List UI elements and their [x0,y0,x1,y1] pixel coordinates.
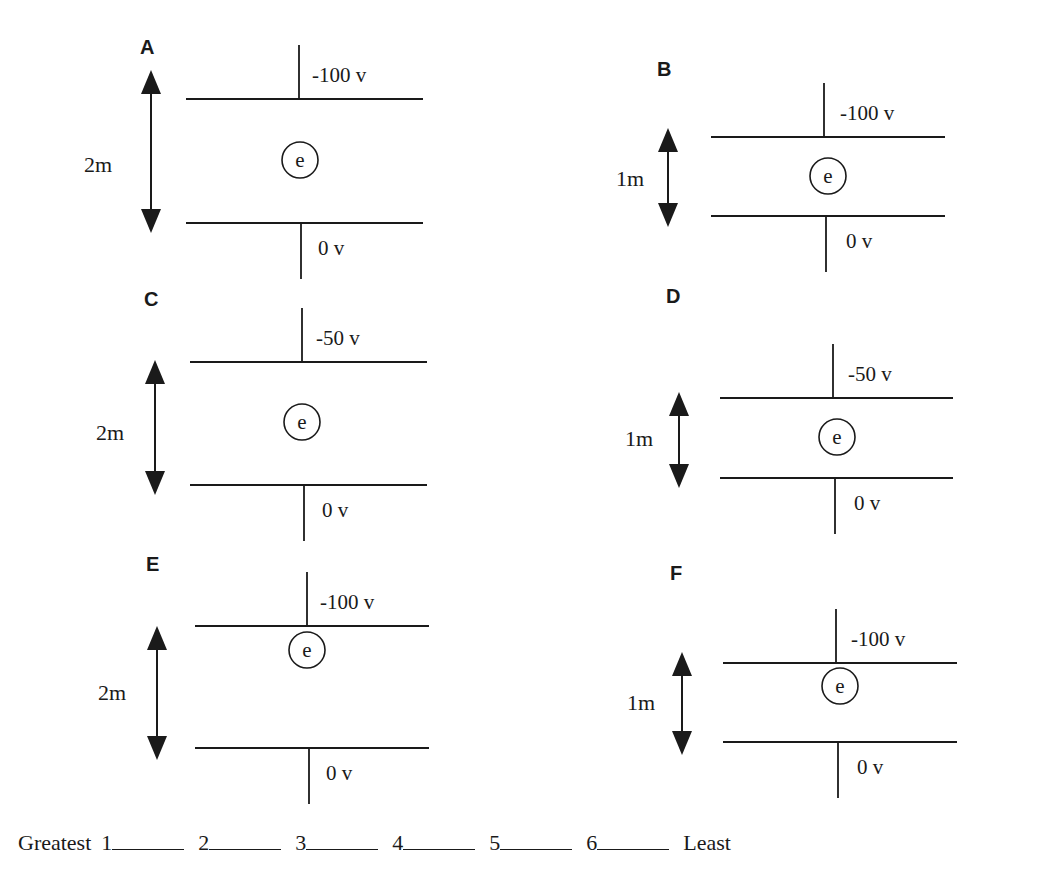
ranking-slot-3-number: 3 [295,830,306,856]
ranking-slot-5-number: 5 [489,830,500,856]
top-voltage-label: -50 v [316,326,360,350]
bottom-voltage-label: 0 v [854,491,881,515]
ranking-slot-3-blank[interactable] [306,831,378,850]
bottom-voltage-label: 0 v [322,498,349,522]
panel-label: A [140,36,154,58]
panel-c: C-50 v0 v2me [96,288,427,541]
electron-icon: e [819,419,855,455]
separation-label: 2m [98,680,126,705]
panel-label: D [666,285,680,307]
double-arrow-icon [669,392,689,488]
double-arrow-icon [672,652,692,755]
top-voltage-label: -100 v [840,101,895,125]
panel-label: B [657,58,671,80]
bottom-voltage-label: 0 v [326,761,353,785]
ranking-slot-5-blank[interactable] [500,831,572,850]
bottom-voltage-label: 0 v [846,229,873,253]
electron-icon: e [282,142,318,178]
ranking-row: Greatest 1 2 3 4 5 6 Least [18,830,1028,856]
top-voltage-label: -50 v [848,362,892,386]
bottom-voltage-label: 0 v [318,236,345,260]
electron-icon: e [284,404,320,440]
panel-label: E [146,553,159,575]
panel-label: F [670,562,682,584]
double-arrow-icon [658,128,678,227]
electron-symbol: e [823,164,832,188]
separation-label: 2m [84,152,112,177]
ranking-slot-2-blank[interactable] [209,831,281,850]
separation-label: 1m [616,166,644,191]
electron-symbol: e [297,410,306,434]
electron-symbol: e [302,638,311,662]
panel-f: F-100 v0 v1me [627,562,957,798]
ranking-slot-1-number: 1 [101,830,112,856]
double-arrow-icon [141,70,161,233]
panel-e: E-100 v0 v2me [98,553,429,804]
ranking-slot-1-blank[interactable] [112,831,184,850]
top-voltage-label: -100 v [312,63,367,87]
electron-icon: e [810,158,846,194]
ranking-slot-6-number: 6 [586,830,597,856]
panel-b: B-100 v0 v1me [616,58,945,272]
ranking-slot-6-blank[interactable] [597,831,669,850]
ranking-slot-4-blank[interactable] [403,831,475,850]
separation-label: 2m [96,420,124,445]
ranking-slot-2-number: 2 [198,830,209,856]
capacitor-plates-diagram: A-100 v0 v2meB-100 v0 v1meC-50 v0 v2meD-… [0,0,1044,820]
separation-label: 1m [625,426,653,451]
panel-d: D-50 v0 v1me [625,285,953,534]
ranking-least-label: Least [683,830,731,856]
electron-icon: e [822,668,858,704]
electron-symbol: e [295,148,304,172]
top-voltage-label: -100 v [851,627,906,651]
ranking-greatest-label: Greatest [18,830,91,856]
double-arrow-icon [145,360,165,495]
double-arrow-icon [147,626,167,760]
ranking-slot-4-number: 4 [392,830,403,856]
bottom-voltage-label: 0 v [857,755,884,779]
panel-a: A-100 v0 v2me [84,36,423,279]
separation-label: 1m [627,690,655,715]
panel-label: C [144,288,158,310]
electron-icon: e [289,632,325,668]
top-voltage-label: -100 v [320,590,375,614]
electron-symbol: e [835,674,844,698]
electron-symbol: e [832,425,841,449]
